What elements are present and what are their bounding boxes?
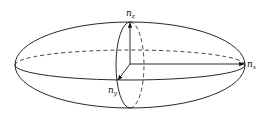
label-nx: nx: [247, 59, 257, 70]
meridian-front-solid: [116, 22, 130, 108]
label-ny: ny: [108, 85, 118, 97]
ellipsoid-diagram: nz nx ny: [0, 0, 269, 118]
meridian-back-dashed: [130, 22, 144, 108]
equator-front-solid: [15, 65, 245, 80]
axis-y-arrow: [118, 64, 130, 80]
label-nz: nz: [126, 8, 136, 19]
